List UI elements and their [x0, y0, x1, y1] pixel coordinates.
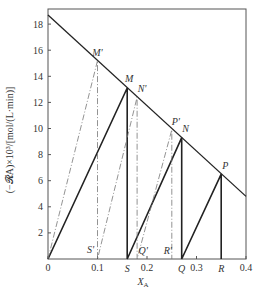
x-tick-label: 0.4: [240, 262, 253, 273]
point-label-m-prime: M': [91, 47, 103, 58]
plot-lines: [48, 15, 246, 259]
y-tick-label: 4: [38, 201, 43, 212]
y-axis-title: (−𝓡A)×10³/[mol/(L·min)]: [4, 87, 16, 194]
y-tick-label: 6: [38, 175, 43, 186]
point-label-p: P: [221, 160, 228, 171]
point-label-s-prime: S': [87, 244, 95, 255]
y-tick-label: 2: [38, 227, 43, 238]
x-tick-label: 0: [46, 262, 51, 273]
y-tick-label: 16: [33, 45, 43, 56]
point-label-r: R: [217, 263, 224, 274]
point-label-s: S: [125, 263, 130, 274]
point-label-r-prime: R': [163, 245, 173, 256]
point-label-m: M: [124, 73, 134, 84]
y-tick-label: 8: [38, 149, 43, 160]
point-label-p-prime: P': [171, 116, 181, 127]
x-axis-title: XA: [136, 276, 148, 289]
point-label-q: Q: [178, 263, 186, 274]
y-tick-label: 10: [33, 123, 43, 134]
point-label-n-prime: N': [137, 83, 148, 94]
point-label-n: N: [181, 123, 190, 134]
point-label-q-prime: Q': [138, 245, 148, 256]
solid-staircase: [48, 88, 221, 259]
y-tick-label: 14: [33, 71, 43, 82]
dash-dot-staircase: [48, 61, 172, 259]
chart: 00.10.20.30.424681012141618 M'MN'P'NPS'S…: [0, 0, 263, 301]
y-tick-label: 12: [33, 97, 43, 108]
y-tick-label: 18: [33, 19, 43, 30]
axis-ticks: 00.10.20.30.424681012141618: [33, 19, 252, 273]
x-tick-label: 0.2: [141, 262, 154, 273]
rate-line: [48, 15, 246, 196]
x-tick-label: 0.3: [190, 262, 203, 273]
x-tick-label: 0.1: [91, 262, 104, 273]
